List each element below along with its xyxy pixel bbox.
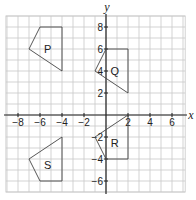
y-tick-label: −6: [92, 176, 104, 187]
y-tick-label: −2: [92, 132, 104, 143]
shape-label: R: [111, 137, 119, 149]
x-tick-label: 6: [169, 117, 175, 128]
shape-label: S: [44, 159, 51, 171]
y-tick-label: 2: [97, 88, 103, 99]
coordinate-plane: −8−6−4−22468642−2−4−6 PQRS x y: [0, 0, 196, 200]
x-tick-label: 4: [147, 117, 153, 128]
y-tick-label: −4: [92, 154, 104, 165]
x-tick-label: −4: [56, 117, 68, 128]
x-tick-label: −8: [12, 117, 24, 128]
shape-label: Q: [111, 65, 120, 77]
shape-label: P: [44, 43, 51, 55]
coordinate-grid-diagram: −8−6−4−22468642−2−4−6 PQRS x y: [0, 0, 196, 200]
x-tick-label: −2: [78, 117, 90, 128]
y-axis-label: y: [103, 0, 110, 14]
x-axis-label: x: [187, 108, 194, 122]
y-tick-label: 6: [97, 44, 103, 55]
y-tick-label: 8: [97, 22, 103, 33]
x-tick-label: −6: [34, 117, 46, 128]
